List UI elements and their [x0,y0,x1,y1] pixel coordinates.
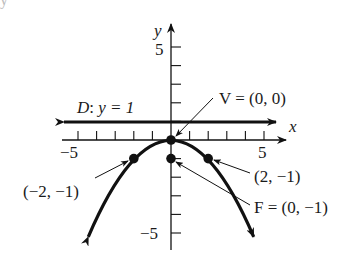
y-axis-label: y [154,22,162,39]
vertex-label: V = (0, 0) [219,90,286,107]
x-tick-label-neg5: −5 [60,144,78,161]
directrix-colon: : [89,98,98,117]
y-tick-label-neg5: −5 [140,225,158,242]
right-point [203,154,213,164]
left-point-label: (−2, −1) [23,183,79,200]
x-axis-label: x [289,118,297,135]
parabola-diagram: y [0,0,360,254]
directrix-name: D [77,98,89,117]
cropped-top-text: y [0,0,8,9]
left-point [129,154,139,164]
vertex-point [166,135,176,145]
vertex-leader-arrow [176,98,213,136]
focus-label: F = (0, −1) [254,199,328,216]
directrix-label: D: y = 1 [77,99,134,116]
focus-point [166,154,176,164]
y-tick-label-5: 5 [155,41,164,58]
x-tick-label-5: 5 [258,144,267,161]
right-point-label: (2, −1) [254,168,300,185]
focus-leader-arrow [176,162,250,205]
directrix-equation: y = 1 [98,98,134,117]
